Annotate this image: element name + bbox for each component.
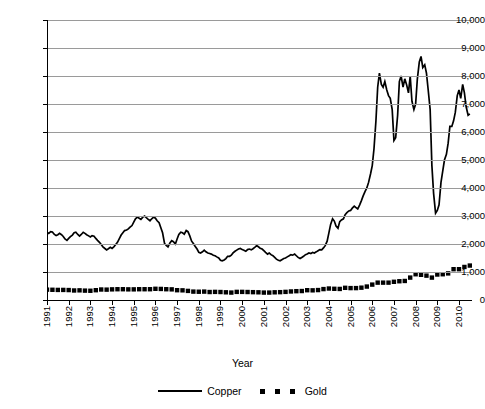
gold-series-marker (408, 275, 412, 279)
gold-series-marker (50, 288, 54, 292)
gold-series-marker (142, 287, 146, 291)
gold-series-marker (83, 288, 87, 292)
gridline (47, 160, 472, 161)
x-tick-label: 1991 (42, 306, 52, 327)
x-tick-mark (134, 300, 135, 305)
x-tick-mark (416, 300, 417, 305)
legend-item-copper: Copper (158, 385, 241, 397)
x-tick-label: 1993 (85, 306, 95, 327)
gold-series-marker (197, 290, 201, 294)
gold-series-marker (354, 286, 358, 290)
x-tick-mark (394, 300, 395, 305)
x-tick-mark (242, 300, 243, 305)
gold-series-marker (132, 287, 136, 291)
gold-series-marker (72, 288, 76, 292)
y-tick-label: 9,000 (443, 43, 485, 53)
x-axis-title: Year (0, 357, 485, 369)
gold-series-marker (370, 282, 374, 286)
gridline (47, 188, 472, 189)
gold-series-marker (94, 288, 98, 292)
gold-series-marker (365, 284, 369, 288)
x-tick-mark (329, 300, 330, 305)
x-tick-label: 2008 (411, 306, 421, 327)
x-tick-label: 2005 (346, 306, 356, 327)
gridline (47, 76, 472, 77)
gold-series-marker (283, 290, 287, 294)
x-tick-mark (372, 300, 373, 305)
gold-series-marker (77, 288, 81, 292)
gold-series-marker (343, 286, 347, 290)
x-tick-mark (286, 300, 287, 305)
x-axis-line (47, 300, 472, 301)
gold-series-marker (300, 289, 304, 293)
x-tick-mark (155, 300, 156, 305)
gold-series-marker (332, 287, 336, 291)
gridline (47, 48, 472, 49)
gridline (47, 20, 472, 21)
gold-series-marker (375, 280, 379, 284)
x-tick-label: 2007 (389, 306, 399, 327)
gold-series-marker (316, 288, 320, 292)
x-tick-label: 1997 (172, 306, 182, 327)
gold-series-marker (164, 287, 168, 291)
x-tick-label: 1995 (129, 306, 139, 327)
gold-series-marker (403, 279, 407, 283)
y-tick-label: 7,000 (443, 99, 485, 109)
x-tick-mark (459, 300, 460, 305)
gold-series-marker (148, 287, 152, 291)
gold-series-marker (88, 289, 92, 293)
gold-series-marker (169, 287, 173, 291)
x-tick-label: 2000 (237, 306, 247, 327)
copper-series-line (47, 56, 470, 260)
gold-series-marker (66, 288, 70, 292)
x-tick-mark (177, 300, 178, 305)
gold-series-marker (419, 273, 423, 277)
x-tick-label: 1998 (194, 306, 204, 327)
gold-series-marker (245, 290, 249, 294)
gold-series-marker (213, 290, 217, 294)
gold-series-marker (56, 288, 60, 292)
x-tick-mark (199, 300, 200, 305)
gold-series-marker (321, 287, 325, 291)
x-tick-mark (264, 300, 265, 305)
gold-series-marker (430, 275, 434, 279)
gold-series-marker (289, 289, 293, 293)
y-tick-label: 8,000 (443, 71, 485, 81)
gridline (47, 244, 472, 245)
legend-item-gold: Gold (256, 385, 327, 397)
gold-series-marker (99, 287, 103, 291)
gold-series-marker (256, 290, 260, 294)
x-tick-label: 2009 (432, 306, 442, 327)
gold-series-marker (386, 280, 390, 284)
gold-series-marker (272, 290, 276, 294)
gridline (47, 216, 472, 217)
gold-series-marker (397, 279, 401, 283)
gold-series-marker (348, 286, 352, 290)
gridline (47, 272, 472, 273)
x-tick-label: 2002 (281, 306, 291, 327)
x-tick-mark (351, 300, 352, 305)
gold-series-marker (191, 289, 195, 293)
gold-series-marker (61, 288, 65, 292)
gold-series-marker (310, 288, 314, 292)
gridline (47, 104, 472, 105)
gold-series-marker (180, 288, 184, 292)
gold-series-marker (381, 280, 385, 284)
y-tick-label: 3,000 (443, 211, 485, 221)
gridline (47, 132, 472, 133)
x-tick-mark (220, 300, 221, 305)
y-tick-label: 2,000 (443, 239, 485, 249)
x-tick-label: 1992 (64, 306, 74, 327)
gold-series-marker (278, 290, 282, 294)
gold-series-marker (137, 287, 141, 291)
gold-series-marker (202, 289, 206, 293)
gold-series-marker (251, 290, 255, 294)
y-tick-label: 4,000 (443, 183, 485, 193)
x-tick-label: 1999 (215, 306, 225, 327)
x-tick-label: 1994 (107, 306, 117, 327)
gold-series-marker (153, 287, 157, 291)
gold-series-marker (229, 290, 233, 294)
gold-series-marker (104, 287, 108, 291)
y-axis-line (47, 20, 48, 301)
gold-series-marker (327, 286, 331, 290)
